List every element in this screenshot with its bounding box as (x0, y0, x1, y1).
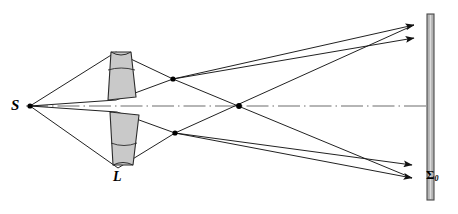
ray-lower-outer-in (30, 106, 118, 168)
point-image-upper (170, 76, 175, 81)
ray-bundle-lower (30, 106, 412, 178)
ray-lower-out-a (175, 133, 412, 165)
ray-cross-down (173, 79, 412, 178)
split-lens (108, 52, 139, 165)
ray-upper-out-b (173, 38, 414, 79)
point-source-dot (27, 103, 32, 108)
ray-upper-inner-in (30, 100, 116, 106)
point-beam-crossing (236, 103, 242, 109)
point-image-lower (172, 130, 177, 135)
ray-bundle-upper (30, 25, 414, 106)
label-screen-sigma-subscript: 0 (435, 174, 439, 183)
diagram-canvas (0, 0, 458, 214)
label-lens-L: L (113, 170, 122, 184)
optics-diagram-figure: S L Σ0 (0, 0, 458, 214)
ray-lower-out-b (175, 133, 412, 178)
lens-upper-half (108, 52, 136, 100)
lens-lower-half (110, 112, 139, 165)
ray-lower-inner-in (30, 106, 117, 112)
label-source-S: S (11, 98, 19, 113)
label-screen-sigma-glyph: Σ (426, 167, 435, 182)
ray-upper-outer-in (30, 52, 116, 106)
label-screen-sigma: Σ0 (426, 168, 439, 181)
ray-cross-up (175, 25, 414, 133)
ray-upper-out-a (173, 25, 414, 79)
